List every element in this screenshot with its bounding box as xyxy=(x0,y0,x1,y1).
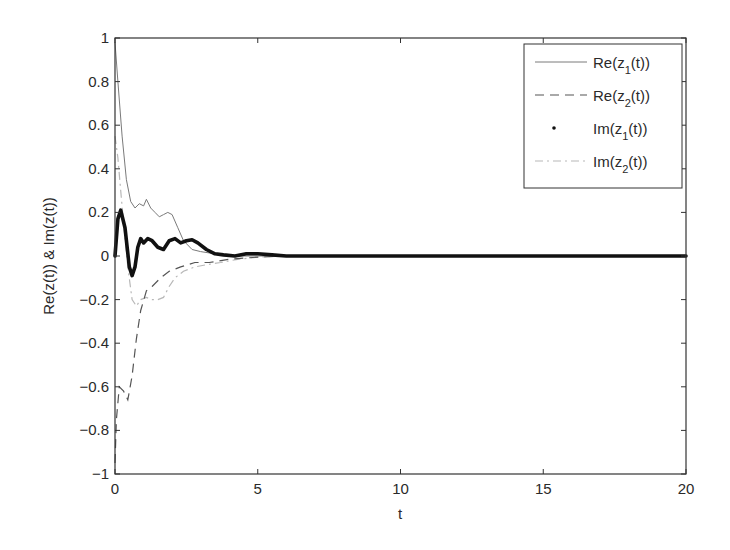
x-tick-label: 15 xyxy=(535,480,552,497)
y-tick-label: −0.2 xyxy=(79,291,109,308)
legend-marker-dot xyxy=(552,126,556,130)
y-tick-label: −0.4 xyxy=(79,334,109,351)
y-axis-label: Re(z(t)) & Im(z(t)) xyxy=(40,197,57,314)
x-tick-label: 0 xyxy=(111,480,119,497)
y-tick-label: 0.2 xyxy=(88,203,109,220)
y-tick-label: −0.8 xyxy=(79,421,109,438)
y-tick-label: 1 xyxy=(101,29,109,46)
x-tick-label: 10 xyxy=(392,480,409,497)
y-tick-label: 0.4 xyxy=(88,160,109,177)
y-tick-label: −1 xyxy=(92,465,109,482)
y-tick-label: 0 xyxy=(101,247,109,264)
y-tick-label: 0.8 xyxy=(88,73,109,90)
y-tick-label: −0.6 xyxy=(79,378,109,395)
legend: Re(z1(t))Re(z2(t))Im(z1(t))Im(z2(t)) xyxy=(524,44,682,188)
y-tick-label: 0.6 xyxy=(88,116,109,133)
x-tick-label: 5 xyxy=(254,480,262,497)
x-tick-label: 20 xyxy=(678,480,695,497)
line-chart: 0510152010.80.60.40.20−0.2−0.4−0.6−0.8−1… xyxy=(0,0,730,550)
